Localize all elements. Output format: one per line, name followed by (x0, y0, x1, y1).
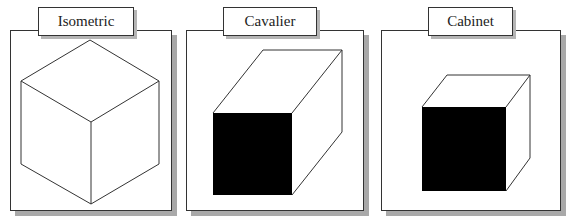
cavalier-cube (213, 50, 342, 195)
cube-drawings (0, 0, 571, 224)
cabinet-cube (422, 75, 530, 191)
isometric-cube (21, 40, 159, 204)
